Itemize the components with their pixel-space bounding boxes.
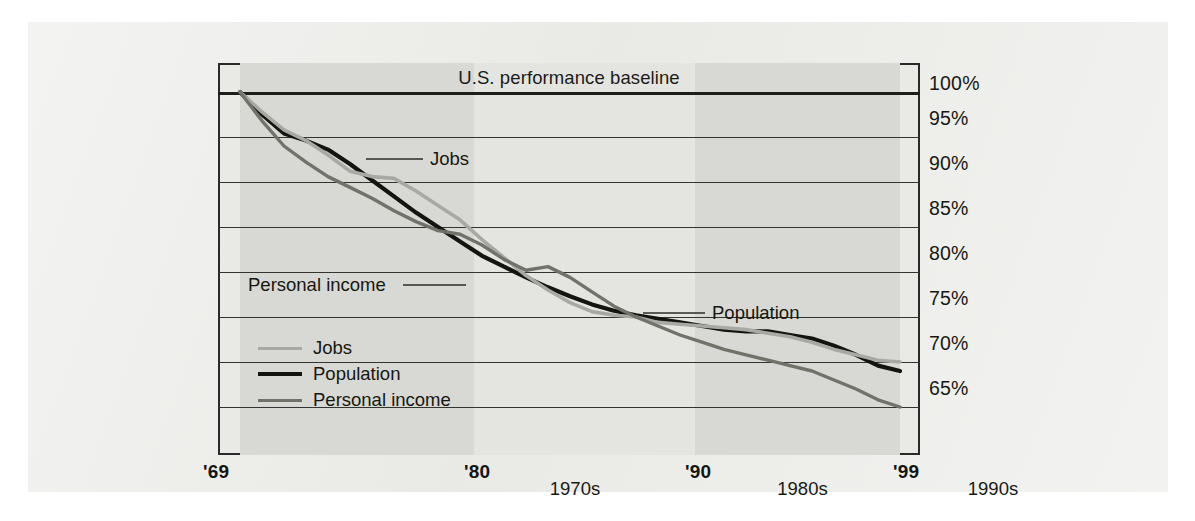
y-tick-75: 75% — [929, 287, 969, 310]
y-tick-90: 90% — [929, 152, 969, 175]
y-tick-70: 70% — [929, 332, 969, 355]
annotation-population: Population — [712, 302, 799, 324]
legend-swatch-jobs — [258, 347, 302, 350]
legend-item-personal-income: Personal income — [258, 387, 451, 413]
y-tick-65: 65% — [929, 377, 969, 400]
series-line-jobs — [240, 92, 900, 362]
legend-label-jobs: Jobs — [313, 337, 352, 359]
x-axis-labels: '69 '80 '90 '99 — [0, 455, 1195, 495]
plot-area: U.S. performance baseline 1970s 1980s 19… — [218, 63, 920, 455]
y-tick-80: 80% — [929, 242, 969, 265]
figure-page: U.S. performance baseline 1970s 1980s 19… — [0, 0, 1195, 521]
y-axis-labels: 100% 95% 90% 85% 80% 75% 70% 65% — [925, 63, 1045, 455]
y-tick-85: 85% — [929, 197, 969, 220]
y-tick-100: 100% — [929, 72, 980, 95]
x-tick-90: '90 — [685, 461, 711, 483]
x-tick-80: '80 — [464, 461, 490, 483]
legend-label-population: Population — [313, 363, 400, 385]
legend-item-population: Population — [258, 361, 451, 387]
annotation-jobs: Jobs — [430, 148, 469, 170]
legend-swatch-population — [258, 372, 302, 376]
legend: Jobs Population Personal income — [258, 335, 451, 413]
y-tick-95: 95% — [929, 107, 969, 130]
chart-figure: U.S. performance baseline 1970s 1980s 19… — [0, 0, 1195, 521]
legend-swatch-personal-income — [258, 399, 302, 402]
annotation-personal-income: Personal income — [248, 274, 386, 296]
legend-item-jobs: Jobs — [258, 335, 451, 361]
x-tick-69: '69 — [203, 461, 229, 483]
legend-label-personal-income: Personal income — [313, 389, 451, 411]
x-tick-99: '99 — [893, 461, 919, 483]
series-line-population — [240, 92, 900, 371]
